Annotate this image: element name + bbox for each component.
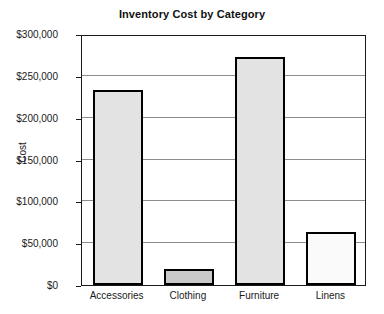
bar <box>93 90 143 285</box>
gridline <box>82 75 365 76</box>
plot-area <box>81 35 366 286</box>
bar-chart: Inventory Cost by Category Cost $0$50,00… <box>0 0 384 314</box>
y-axis-tick-label: $300,000 <box>0 30 58 40</box>
y-axis-tick-label: $0 <box>0 281 58 291</box>
bar <box>306 232 356 285</box>
chart-title: Inventory Cost by Category <box>0 8 384 20</box>
x-axis-tick-label: Clothing <box>152 291 223 301</box>
y-axis-title: Cost <box>17 123 28 183</box>
y-axis-tick-mark <box>76 286 81 287</box>
bar <box>235 57 285 285</box>
y-axis-tick-label: $100,000 <box>0 197 58 207</box>
x-axis-tick-label: Linens <box>295 291 366 301</box>
y-axis-tick-label: $150,000 <box>0 156 58 166</box>
y-axis-tick-label: $200,000 <box>0 114 58 124</box>
bar <box>164 269 214 285</box>
x-axis-tick-label: Accessories <box>81 291 152 301</box>
y-axis-tick-label: $250,000 <box>0 72 58 82</box>
x-axis-tick-label: Furniture <box>224 291 295 301</box>
y-axis-tick-label: $50,000 <box>0 239 58 249</box>
